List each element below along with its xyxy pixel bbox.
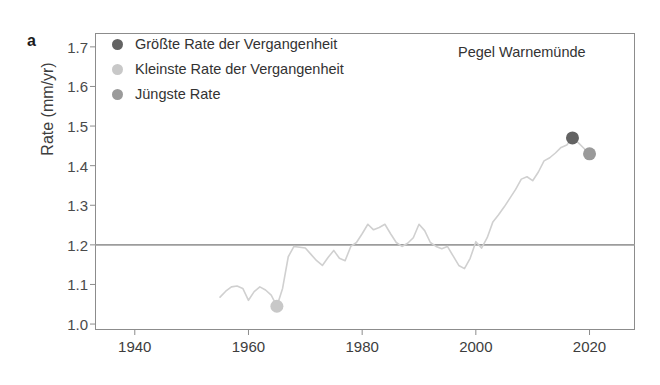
highlight-point: [270, 300, 283, 313]
gauge-station-annotation: Pegel Warnemünde: [458, 44, 586, 60]
legend-item-label: Größte Rate der Vergangenheit: [135, 36, 337, 52]
plot-frame: [96, 34, 635, 330]
y-axis-tick-marks: [90, 47, 95, 324]
data-line: [220, 138, 589, 306]
legend-item-label: Kleinste Rate der Vergangenheit: [135, 61, 344, 77]
highlight-point: [566, 131, 579, 144]
data-series-group: [220, 138, 589, 306]
legend-marker-icon: [112, 39, 123, 50]
legend-item[interactable]: Kleinste Rate der Vergangenheit: [112, 61, 344, 77]
legend-marker-icon: [112, 89, 123, 100]
legend-item[interactable]: Jüngste Rate: [112, 86, 220, 102]
legend-item[interactable]: Größte Rate der Vergangenheit: [112, 36, 337, 52]
x-axis-tick-marks: [135, 330, 590, 335]
highlight-point: [583, 147, 596, 160]
legend-item-label: Jüngste Rate: [135, 86, 220, 102]
figure-panel: a Rate (mm/yr) 1.01.11.21.31.41.51.61.7 …: [0, 0, 660, 385]
legend-marker-icon: [112, 64, 123, 75]
